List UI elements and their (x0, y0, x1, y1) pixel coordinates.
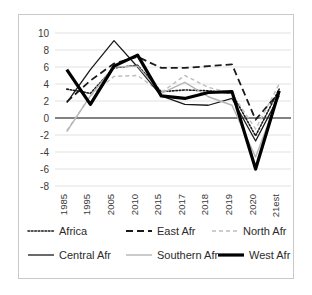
y-axis-tick-label: -6 (40, 164, 49, 175)
legend-swatch-icon (217, 249, 245, 261)
legend-label: East Afr (157, 225, 196, 237)
x-axis-tick-label: 2015 (152, 194, 163, 215)
line-chart-svg: 1086420-2-4-6-81985199520052010201520172… (19, 15, 295, 217)
legend-label: West Afr (249, 249, 290, 261)
legend-label: Central Afr (59, 249, 111, 261)
legend-swatch-icon (211, 225, 239, 237)
x-axis-tick-label: 1995 (81, 194, 92, 215)
x-axis-tick-label: 2019 (223, 194, 234, 215)
x-axis-tick-label: 2005 (105, 194, 116, 215)
legend-label: Africa (59, 225, 87, 237)
plot-area: 1086420-2-4-6-81985199520052010201520172… (19, 15, 295, 217)
chart-legend: AfricaEast AfrNorth AfrCentral AfrSouthe… (19, 219, 295, 277)
chart-card: 1086420-2-4-6-81985199520052010201520172… (18, 14, 294, 279)
x-axis-tick-label: 2017 (176, 194, 187, 215)
legend-label: North Afr (243, 225, 286, 237)
legend-label: Southern Afr (157, 249, 218, 261)
x-axis-tick-label: 2021est (270, 194, 281, 217)
y-axis-tick-label: 2 (43, 96, 49, 107)
y-axis-tick-label: 0 (43, 113, 49, 124)
x-axis-tick-label: 2020 (247, 194, 258, 215)
y-axis-tick-label: 10 (38, 28, 50, 39)
x-axis-tick-label: 2018 (199, 194, 210, 215)
y-axis-tick-label: -4 (40, 147, 49, 158)
legend-row: Central AfrSouthern AfrWest Afr (19, 243, 295, 267)
x-axis-tick-label: 2010 (129, 194, 140, 215)
legend-item-central-afr[interactable]: Central Afr (27, 249, 111, 261)
legend-swatch-icon (27, 249, 55, 261)
y-axis-tick-label: 4 (43, 79, 49, 90)
legend-item-africa[interactable]: Africa (27, 225, 111, 237)
legend-item-north-afr[interactable]: North Afr (211, 225, 295, 237)
x-axis-tick-label: 1985 (58, 194, 69, 215)
y-axis-tick-label: -8 (40, 181, 49, 192)
y-axis-tick-label: 6 (43, 62, 49, 73)
legend-swatch-icon (27, 225, 55, 237)
legend-swatch-icon (125, 249, 153, 261)
legend-row: AfricaEast AfrNorth Afr (19, 219, 295, 243)
legend-item-east-afr[interactable]: East Afr (125, 225, 209, 237)
legend-item-southern-afr[interactable]: Southern Afr (125, 249, 215, 261)
y-axis-tick-label: -2 (40, 130, 49, 141)
legend-item-west-afr[interactable]: West Afr (217, 249, 295, 261)
y-axis-tick-label: 8 (43, 45, 49, 56)
legend-swatch-icon (125, 225, 153, 237)
